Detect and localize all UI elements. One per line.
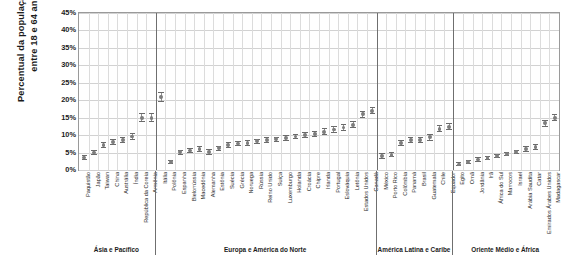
gridline-vertical: [300, 13, 301, 170]
data-point-marker: [122, 137, 123, 143]
marker-point-estimate: [428, 135, 432, 139]
gridline-vertical: [309, 13, 310, 170]
data-point-marker: [525, 146, 526, 152]
gridline-vertical: [319, 13, 320, 170]
marker-cap-lower: [235, 145, 240, 146]
marker-point-estimate: [332, 128, 336, 132]
x-axis-tick-label: Grécia: [239, 172, 245, 188]
data-point-marker: [516, 150, 517, 154]
marker-cap-lower: [408, 142, 413, 143]
gridline-vertical: [463, 13, 464, 170]
marker-point-estimate: [130, 135, 134, 139]
gridline-vertical: [511, 13, 512, 170]
marker-point-estimate: [370, 109, 374, 113]
marker-cap-upper: [149, 113, 154, 114]
gridline-vertical: [405, 13, 406, 170]
data-point-marker: [276, 137, 277, 143]
gridline-vertical: [204, 13, 205, 170]
x-axis-tick-label: Colômbia: [402, 172, 408, 196]
gridline-vertical: [501, 13, 502, 170]
x-axis-tick-label: Taiwan: [104, 172, 110, 189]
data-point-marker: [410, 137, 411, 143]
marker-cap-upper: [130, 133, 135, 134]
data-point-marker: [391, 152, 392, 158]
gridline-vertical: [137, 13, 138, 170]
x-axis-tick-label: Porto Rico: [392, 172, 398, 198]
marker-cap-upper: [350, 121, 355, 122]
x-axis-tick-label: Polônia: [171, 172, 177, 191]
marker-point-estimate: [140, 116, 144, 120]
marker-cap-lower: [283, 140, 288, 141]
gridline-vertical: [521, 13, 522, 170]
gridline-vertical: [89, 13, 90, 170]
gridline-vertical: [252, 13, 253, 170]
data-point-marker: [161, 92, 162, 102]
data-point-marker: [372, 107, 373, 114]
marker-point-estimate: [438, 127, 442, 131]
marker-cap-lower: [158, 101, 163, 102]
x-axis-tick-label: Holanda: [296, 172, 302, 193]
data-point-marker: [353, 121, 354, 128]
gridline-vertical: [290, 13, 291, 170]
marker-point-estimate: [246, 141, 250, 145]
marker-point-estimate: [159, 95, 163, 99]
gridline-vertical: [425, 13, 426, 170]
y-axis-tick-label: 20%: [44, 95, 76, 104]
data-point-marker: [314, 131, 315, 137]
gridline-vertical: [223, 13, 224, 170]
data-point-marker: [237, 141, 238, 147]
marker-point-estimate: [303, 133, 307, 137]
marker-cap-lower: [379, 158, 384, 159]
marker-point-estimate: [226, 143, 230, 147]
x-axis-tick-label: Reino Unido: [267, 172, 273, 203]
data-point-marker: [247, 140, 248, 146]
marker-point-estimate: [543, 121, 547, 125]
marker-cap-lower: [149, 121, 154, 122]
marker-cap-lower: [398, 145, 403, 146]
gridline-vertical: [271, 13, 272, 170]
data-point-marker: [554, 114, 555, 121]
x-axis-tick-label: Rússia: [258, 172, 264, 189]
data-point-marker: [449, 123, 450, 130]
marker-point-estimate: [342, 126, 346, 130]
x-axis-tick-label: Omã: [469, 172, 475, 184]
x-axis-tick-label: África do Sul: [498, 172, 504, 204]
gridline-vertical: [233, 13, 234, 170]
gridline-vertical: [434, 13, 435, 170]
gridline-vertical: [146, 13, 147, 170]
marker-cap-upper: [139, 113, 144, 114]
data-point-marker: [257, 139, 258, 145]
x-axis-tick-label: Jordânia: [479, 172, 485, 193]
data-point-marker: [170, 160, 171, 164]
marker-cap-lower: [523, 151, 528, 152]
chart-container: Percentual da população adulta entre 18 …: [0, 0, 565, 278]
data-point-marker: [333, 126, 334, 133]
x-axis-tick-label: Egito: [459, 172, 465, 185]
gridline-vertical: [396, 13, 397, 170]
data-point-marker: [180, 150, 181, 155]
gridline-vertical: [175, 13, 176, 170]
marker-cap-lower: [101, 147, 106, 148]
gridline-vertical: [415, 13, 416, 170]
y-axis-tick-labels: 0%5%10%15%20%25%30%35%40%45%: [44, 12, 76, 171]
x-axis-tick-label: Espanha: [181, 172, 187, 194]
x-axis-tick-label: Austrália: [123, 172, 129, 194]
marker-point-estimate: [505, 152, 509, 156]
x-axis-tick-label: Brasil: [421, 172, 427, 186]
x-axis-tick-label: Letônia: [354, 172, 360, 190]
gridline-vertical: [329, 13, 330, 170]
data-point-marker: [324, 128, 325, 135]
data-point-marker: [429, 134, 430, 141]
marker-cap-lower: [187, 152, 192, 153]
gridline-vertical: [261, 13, 262, 170]
x-axis-tick-label: Catar: [536, 172, 542, 186]
x-axis-tick-label: China: [114, 172, 120, 187]
gridline-vertical: [473, 13, 474, 170]
gridline-vertical: [281, 13, 282, 170]
data-point-marker: [228, 142, 229, 148]
group-separator-extension: [155, 171, 156, 255]
marker-point-estimate: [322, 130, 326, 134]
y-axis-tick-label: 10%: [44, 130, 76, 139]
x-axis-tick-label: Croácia: [306, 172, 312, 191]
marker-cap-lower: [139, 121, 144, 122]
